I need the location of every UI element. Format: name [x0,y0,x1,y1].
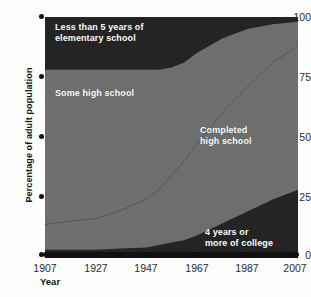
x-tick-dot-2007 [294,252,299,257]
y-tick-dot-25 [39,194,44,199]
x-tick-label-1987: 1987 [225,262,269,274]
x-tick-label-1947: 1947 [124,262,168,274]
y-axis-title: Percentage of adult population [24,20,34,250]
x-tick-label-1927: 1927 [74,262,118,274]
x-tick-dot-1947 [144,252,149,257]
x-tick-dot-1907 [43,252,48,257]
x-tick-label-2007: 2007 [273,262,311,274]
band-label-some-high-school: Some high school [55,88,134,99]
x-axis-baseline [45,252,298,258]
plot-area [45,17,298,257]
x-tick-dot-1927 [93,252,98,257]
x-tick-label-1967: 1967 [175,262,219,274]
y-tick-dot-100 [39,14,44,19]
band-label-less-than-5-years-elementary: Less than 5 years of elementary school [55,22,144,44]
x-tick-label-1907: 1907 [23,262,67,274]
chart-root: Percentage of adult population 100 75 50… [0,0,311,297]
y-tick-dot-75 [39,74,44,79]
x-axis-title: Year [40,276,60,287]
x-tick-dot-1967 [194,252,199,257]
band-label-completed-high-school: Completed high school [200,125,252,147]
x-tick-dot-1987 [245,252,250,257]
y-tick-dot-50 [39,134,44,139]
band-label-4-years-or-more-college: 4 years or more of college [205,227,273,249]
stacked-area-svg [45,17,298,257]
